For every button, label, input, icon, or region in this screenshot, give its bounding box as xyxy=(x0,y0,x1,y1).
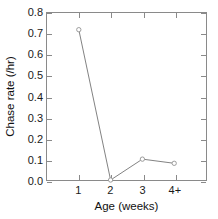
x-axis-title: Age (weeks) xyxy=(46,201,207,213)
y-tick-mark-right xyxy=(201,182,206,183)
data-series-svg xyxy=(47,13,206,180)
y-tick-label: 0.7 xyxy=(3,28,43,39)
y-tick-label: 0.6 xyxy=(3,49,43,60)
y-tick-label: 0.5 xyxy=(3,70,43,81)
y-tick-mark xyxy=(47,182,52,183)
y-tick-label: 0.4 xyxy=(3,91,43,102)
y-tick-label: 0.3 xyxy=(3,112,43,123)
data-point-marker xyxy=(77,28,81,32)
plot-area xyxy=(46,12,207,181)
data-marker-group xyxy=(77,28,177,183)
data-line xyxy=(79,30,174,180)
y-tick-label: 0.2 xyxy=(3,133,43,144)
data-point-marker xyxy=(140,157,144,161)
x-tick-label: 4+ xyxy=(155,185,195,196)
data-point-marker xyxy=(172,161,176,165)
y-tick-label: 0.1 xyxy=(3,154,43,165)
data-point-marker xyxy=(108,178,112,182)
chart-figure: Chase rate (/hr) 0.00.10.20.30.40.50.60.… xyxy=(0,0,218,219)
y-tick-label: 0.0 xyxy=(3,176,43,187)
y-tick-label: 0.8 xyxy=(3,7,43,18)
